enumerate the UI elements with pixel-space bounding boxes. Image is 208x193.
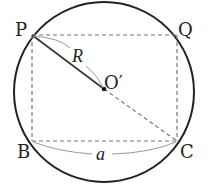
label-center-O: O′ — [104, 72, 123, 93]
label-side-a: a — [96, 144, 105, 164]
side-label-arc-right — [112, 142, 176, 154]
side-label-arc-left — [33, 142, 92, 154]
segment-OC — [104, 89, 177, 141]
label-P: P — [15, 19, 27, 40]
label-Q: Q — [178, 19, 193, 40]
radius-PO — [32, 35, 104, 89]
label-C: C — [180, 141, 194, 162]
radius-label-arc — [33, 36, 70, 48]
inscribed-rectangle-diagram: P Q B C O′ R a — [0, 0, 208, 193]
label-B: B — [17, 141, 30, 162]
label-radius-R: R — [71, 46, 83, 66]
